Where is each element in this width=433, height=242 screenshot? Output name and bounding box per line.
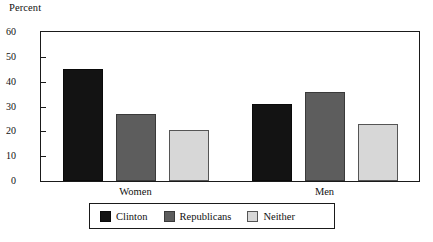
y-axis-tick-label: 60 [0, 27, 16, 37]
y-axis-tick-label: 0 [0, 176, 16, 186]
y-axis-tick-label: 50 [0, 52, 16, 62]
x-axis-category-label: Women [119, 186, 151, 197]
legend-label: Clinton [116, 211, 148, 222]
bar-men-clinton [252, 104, 292, 181]
y-axis-tick-label: 20 [0, 126, 16, 136]
legend-label: Republicans [180, 211, 232, 222]
legend-item-republicans: Republicans [164, 211, 232, 222]
legend-item-clinton: Clinton [100, 211, 148, 222]
bar-women-neither [169, 130, 209, 181]
legend-swatch-neither [247, 211, 258, 222]
x-axis-category-label: Men [315, 186, 334, 197]
legend-items: ClintonRepublicansNeither [90, 204, 334, 228]
y-axis-title: Percent [9, 2, 41, 13]
y-axis-tick-label: 10 [0, 151, 16, 161]
bar-chart-figure: Percent 0102030405060 WomenMen ClintonRe… [0, 0, 433, 242]
bar-women-clinton [63, 69, 103, 181]
bar-women-republicans [116, 114, 156, 181]
legend-label: Neither [263, 211, 295, 222]
legend-swatch-clinton [100, 211, 111, 222]
bar-men-republicans [305, 92, 345, 181]
bar-men-neither [358, 124, 398, 181]
bars-layer [41, 32, 419, 181]
y-axis-tick-label: 40 [0, 77, 16, 87]
y-axis-tick-label: 30 [0, 102, 16, 112]
legend-item-neither: Neither [247, 211, 295, 222]
legend: ClintonRepublicansNeither [89, 203, 335, 229]
legend-swatch-republicans [164, 211, 175, 222]
